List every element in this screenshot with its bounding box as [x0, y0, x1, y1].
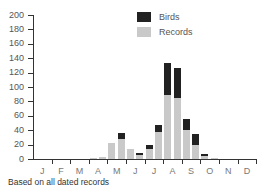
y-tick — [28, 101, 33, 102]
y-tick-label: 160 — [0, 39, 24, 48]
x-tick-label: D — [238, 166, 256, 176]
x-tick-label: N — [219, 166, 237, 176]
x-tick-label: J — [145, 166, 163, 176]
y-tick-label: 140 — [0, 54, 24, 63]
x-tick — [238, 160, 239, 164]
y-tick-label: 200 — [0, 11, 24, 20]
bar-records — [183, 130, 190, 159]
bar-records — [211, 158, 218, 159]
y-tick-label: 0 — [0, 155, 24, 164]
bar-records — [136, 155, 143, 159]
x-tick — [200, 160, 201, 164]
x-tick — [89, 160, 90, 164]
legend-swatch-records — [137, 27, 151, 37]
bar-records — [201, 156, 208, 159]
bar-birds — [155, 125, 162, 131]
bar-records — [155, 132, 162, 159]
bar-birds — [183, 119, 190, 130]
y-tick — [28, 15, 33, 16]
legend-label-records: Records — [159, 27, 193, 37]
bar-records — [99, 157, 106, 159]
y-tick-label: 60 — [0, 111, 24, 120]
y-tick — [28, 116, 33, 117]
x-tick-label: J — [33, 166, 51, 176]
y-tick-label: 100 — [0, 83, 24, 92]
legend-swatch-birds — [137, 12, 151, 22]
x-tick-label: M — [71, 166, 89, 176]
x-tick-label: M — [108, 166, 126, 176]
bar-birds — [174, 68, 181, 98]
x-tick-label: A — [164, 166, 182, 176]
x-tick-label: S — [182, 166, 200, 176]
x-tick — [126, 160, 127, 164]
bar-birds — [136, 153, 143, 154]
x-tick-label: J — [126, 166, 144, 176]
y-tick-label: 120 — [0, 68, 24, 77]
x-tick — [163, 160, 164, 164]
y-tick — [28, 159, 33, 160]
x-tick — [107, 160, 108, 164]
y-tick — [28, 87, 33, 88]
y-tick-label: 80 — [0, 97, 24, 106]
bar-records — [90, 158, 97, 159]
x-tick-label: O — [201, 166, 219, 176]
bar-records — [127, 149, 134, 159]
bar-records — [164, 95, 171, 159]
y-tick — [28, 130, 33, 131]
bar-records — [192, 145, 199, 159]
y-tick-label: 20 — [0, 140, 24, 149]
y-tick-label: 40 — [0, 126, 24, 135]
y-tick — [28, 44, 33, 45]
x-tick — [145, 160, 146, 164]
bar-birds — [164, 63, 171, 95]
bar-records — [108, 143, 115, 159]
x-tick — [182, 160, 183, 164]
footnote: Based on all dated records — [8, 177, 109, 187]
legend-label-birds: Birds — [159, 12, 180, 22]
bar-records — [118, 139, 125, 159]
bar-birds — [146, 145, 153, 149]
bar-birds — [192, 134, 199, 145]
y-tick — [28, 58, 33, 59]
x-tick — [70, 160, 71, 164]
bar-birds — [118, 133, 125, 139]
y-tick — [28, 73, 33, 74]
x-tick-label: A — [89, 166, 107, 176]
bar-records — [174, 98, 181, 159]
x-tick-label: F — [52, 166, 70, 176]
x-tick — [52, 160, 53, 164]
y-tick-label: 180 — [0, 25, 24, 34]
y-tick — [28, 145, 33, 146]
x-tick — [219, 160, 220, 164]
bar-birds — [201, 154, 208, 156]
y-tick — [28, 29, 33, 30]
y-axis — [33, 15, 34, 160]
x-tick — [256, 160, 257, 164]
bar-records — [146, 149, 153, 159]
